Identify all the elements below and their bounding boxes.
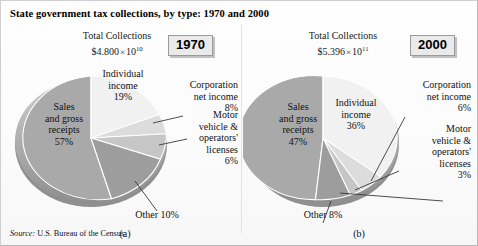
total-exponent-2000: 11 — [362, 45, 368, 52]
label-individual-1970: Individual income 19% — [90, 68, 156, 103]
label-motor-2000: Motor vehicle & operators' licenses 3% — [401, 123, 471, 181]
total-collections-2000: Total Collections $5.396×1011 — [279, 30, 407, 58]
total-collections-label-1970: Total Collections — [83, 30, 151, 41]
label-corporation-2000: Corporation net income 6% — [393, 79, 471, 114]
caption-b: (b) — [339, 228, 379, 239]
label-sales-1970: Sales and gross receipts 57% — [31, 101, 97, 147]
label-other-1970: Other 10% — [123, 209, 191, 221]
label-sales-2000: Sales and gross receipts 47% — [265, 101, 331, 147]
panel-1970: Total Collections $4.800×1010 1970 — [5, 23, 241, 245]
total-exponent-1970: 10 — [136, 45, 143, 52]
label-other-2000: Other 8% — [289, 209, 357, 221]
source-note: Source: U.S. Bureau of the Census — [10, 229, 124, 238]
panel-2000: Total Collections $5.396×1011 2000 Sales… — [243, 23, 475, 245]
label-individual-2000: Individual income 36% — [323, 97, 389, 132]
total-base-2000: 10 — [352, 46, 362, 57]
total-collections-label-2000: Total Collections — [309, 30, 377, 41]
figure-title: State government tax collections, by typ… — [10, 8, 269, 19]
total-collections-value-2000: $5.396 — [318, 46, 346, 57]
source-prefix: Source: — [10, 229, 35, 238]
year-badge-2000: 2000 — [410, 35, 455, 56]
figure-container: State government tax collections, by typ… — [0, 0, 478, 246]
label-motor-1970: Motor vehicle & operators' licenses 6% — [168, 109, 238, 167]
source-text: U.S. Bureau of the Census — [35, 229, 124, 238]
